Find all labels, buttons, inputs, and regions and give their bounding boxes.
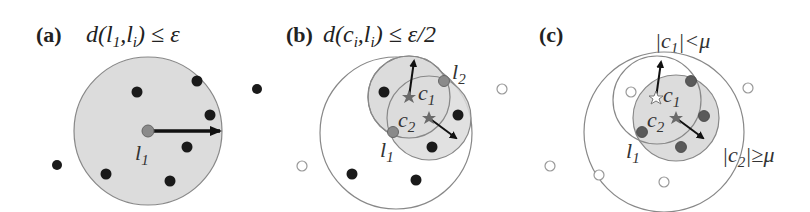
- data-point: [676, 142, 687, 153]
- noise-point: [545, 161, 555, 171]
- leader-point-l1: [142, 125, 154, 137]
- l1-label: l1: [380, 137, 394, 165]
- data-point: [205, 110, 216, 121]
- leader-point-l1: [388, 127, 399, 138]
- data-point: [252, 84, 262, 94]
- data-point: [427, 142, 438, 153]
- clustering-diagram: (a) d(l1,li) ≤ ε l1 (b) d(ci,li) ≤ ε/2 c…: [0, 0, 810, 212]
- panel-b: (b) d(ci,li) ≤ ε/2 c1 c2 l2 l1: [286, 21, 507, 209]
- noise-point: [497, 84, 507, 94]
- noise-point: [594, 170, 604, 180]
- data-point: [165, 176, 176, 187]
- panel-b-label: (b): [286, 22, 313, 47]
- panel-a: (a) d(l1,li) ≤ ε l1: [36, 21, 262, 205]
- data-point: [453, 110, 464, 121]
- data-point: [132, 87, 143, 98]
- noise-point: [297, 161, 307, 171]
- data-point: [347, 169, 358, 180]
- leader-point-l2: [439, 76, 450, 87]
- data-point: [411, 175, 422, 186]
- data-point: [182, 142, 193, 153]
- data-point: [699, 111, 710, 122]
- panel-c-label: (c): [539, 22, 563, 47]
- panel-c: (c) |c1|<μ |c2|≥μ c1 c2 l1: [539, 22, 774, 212]
- noise-point: [626, 87, 636, 97]
- data-point: [379, 87, 390, 98]
- panel-a-formula: d(l1,li) ≤ ε: [86, 21, 180, 50]
- noise-point: [743, 83, 753, 93]
- data-point: [192, 76, 203, 87]
- leader-point-l1: [637, 127, 648, 138]
- panel-a-label: (a): [36, 22, 62, 47]
- noise-point: [659, 177, 669, 187]
- data-point: [686, 76, 697, 87]
- l1-label: l1: [626, 138, 640, 166]
- l2-label: l2: [452, 59, 466, 87]
- data-point: [52, 160, 62, 170]
- data-point: [101, 169, 112, 180]
- panel-b-formula: d(ci,li) ≤ ε/2: [323, 21, 436, 50]
- c2-condition-label: |c2|≥μ: [722, 142, 774, 170]
